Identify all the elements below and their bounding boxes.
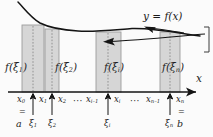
x-axis-label: x <box>196 72 202 84</box>
sample-sub: i <box>109 122 111 128</box>
x-tick-sub: i–1 <box>91 98 99 104</box>
equals-sign-right: = <box>178 108 185 116</box>
x-tick-label-xn: xn <box>176 95 184 104</box>
sample-label-xi2: ξ2 <box>48 119 56 128</box>
x-tick-label-x1: x1 <box>39 95 47 104</box>
right-bracket <box>204 27 209 52</box>
callout-arrow-line <box>110 34 205 42</box>
x-tick-sub: i <box>119 98 121 104</box>
sample-label-xi1: ξ1 <box>29 119 37 128</box>
height-label-tail: ) <box>180 61 184 73</box>
height-label-i: f(ξi) <box>104 62 124 74</box>
riemann-rectangles <box>22 25 180 92</box>
height-label-text: f(ξ <box>5 61 19 73</box>
endpoint-label-b: b <box>177 119 183 129</box>
x-tick-sub: n <box>181 98 184 104</box>
height-label-tail: ) <box>23 61 27 73</box>
height-label-1: f(ξ1) <box>5 62 27 74</box>
riemann-sum-figure: y = f(x) x f(ξ1) f(ξ2) f(ξi) f(ξn) x0 x1… <box>0 0 213 137</box>
sample-label-xin: ξn <box>165 119 173 128</box>
x-tick-label-x2: x2 <box>58 95 66 104</box>
x-tick-label-xi-1: xi–1 <box>86 95 98 104</box>
ellipsis-right: ··· <box>130 96 140 106</box>
x-tick-sub: 0 <box>22 98 25 104</box>
curve-label: y = f(x) <box>143 10 182 22</box>
sample-label-xii: ξi <box>104 119 110 128</box>
sample-sub: 1 <box>34 122 37 128</box>
ellipsis-left: ··· <box>73 96 83 106</box>
height-label-tail: ) <box>120 61 124 73</box>
height-label-text: f(ξ <box>55 61 69 73</box>
sample-sub: 2 <box>53 122 56 128</box>
tick-arrow <box>49 94 54 116</box>
x-tick-sub: 2 <box>63 98 66 104</box>
endpoint-label-a: a <box>16 119 22 129</box>
tick-arrow <box>167 94 172 116</box>
x-tick-label-xi: xi <box>114 95 120 104</box>
height-label-text: f(ξ <box>162 61 176 73</box>
height-label-text: f(ξ <box>104 61 118 73</box>
height-label-n: f(ξn) <box>162 62 184 74</box>
x-tick-label-x0: x0 <box>17 95 25 104</box>
x-tick-sub: 1 <box>44 98 47 104</box>
tick-arrow <box>105 94 110 116</box>
height-label-tail: ) <box>73 61 77 73</box>
equals-sign-left: = <box>19 108 26 116</box>
height-label-2: f(ξ2) <box>55 62 77 74</box>
x-tick-sub: n–1 <box>151 98 160 104</box>
x-tick-label-xn-1: xn–1 <box>146 95 160 104</box>
sample-sub: n <box>170 122 173 128</box>
tick-arrow <box>30 94 35 116</box>
